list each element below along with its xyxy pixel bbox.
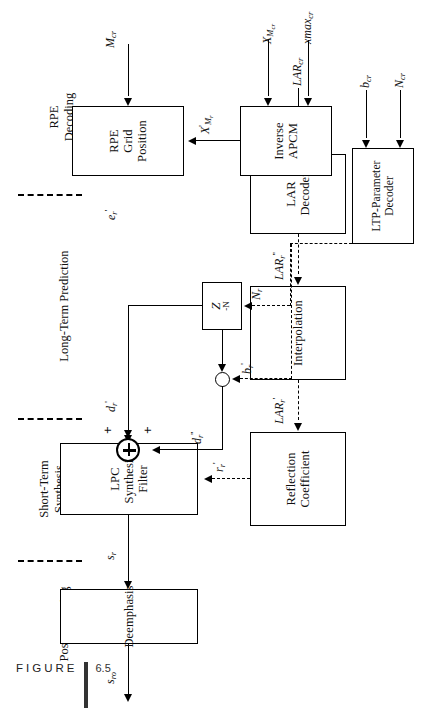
signal-xmax-cr-base: xmax [300,19,314,44]
wire-lar-r1 [298,380,299,420]
signal-lar-r11-sub: r [277,255,287,258]
section-title-rpe-decoding: RPE Decoding [32,62,77,172]
block-label-ltp-l2: Decoder [383,176,396,216]
caption-rule [84,662,88,708]
wire-b-cr [366,90,367,138]
signal-d-r1-sup: ' [103,401,113,403]
signal-label-r-r1: rr' [212,462,227,472]
signal-n-cr-base: N [392,80,406,88]
signal-lar-r11-base: LAR [272,259,286,280]
arrowhead-b-r1 [232,376,240,384]
block-label-rpe-l1: RPE [107,129,121,152]
block-label-deemphasis: Deemphasis [122,585,136,647]
signal-label-x-mcr: XMcr [261,24,277,44]
wire-d-r1-tap-down [128,305,202,306]
figure-page: Postprocessing Short-Term Synthesis Filt… [0,0,426,712]
signal-r-r1-base: r [212,467,226,472]
signal-lar-r1-base: LAR [272,403,286,424]
arrowhead-lar-r1 [294,423,302,431]
signal-d-r1-base: d [104,406,118,412]
separator-shortterm-longterm [18,418,82,420]
signal-b-r1-sup: ' [239,363,249,365]
signal-e-r1-base: e [104,215,118,220]
arrowhead-x-mr1 [188,138,196,146]
block-label-interpolation: Interpolation [291,300,305,366]
signal-label-n-cr: Ncr [393,73,407,88]
wire-n-r [252,305,290,306]
arrowhead-b-cr [362,140,370,148]
rotated-figure-container: Postprocessing Short-Term Synthesis Filt… [0,0,426,712]
block-label-rpe-l3: Position [135,120,149,162]
signal-x-mcr-sub: M [265,30,275,37]
signal-label-d-r11: dr'' [190,432,205,444]
adder-plus-b: + [140,426,155,434]
signal-x-mcr-sub2: cr [269,24,277,30]
signal-m-cr-base: M [103,38,117,48]
block-label-reflection-l2: Coefficient [298,450,312,507]
signal-e-r1-sub: r [109,211,119,214]
wire-d-r11-vert [160,449,223,450]
signal-d-r1-sub: r [109,403,119,406]
block-ltp-parameter-decoder-main[interactable]: LTP-Parameter Decoder [352,148,414,244]
section-label-short-term-l1: Short-Term [37,460,51,517]
signal-x-mcr-base: X [260,37,274,44]
arrowhead-x-mcr [264,98,272,106]
signal-d-r11-sub: r [195,435,205,438]
signal-m-cr-sub: cr [108,31,118,38]
block-diagram-canvas: Postprocessing Short-Term Synthesis Filt… [0,0,426,712]
signal-lar-cr-base: LAR [290,65,304,86]
arrowhead-n-cr [396,140,404,148]
signal-n-cr-sub: cr [397,73,407,80]
signal-x-mr1-sub: M [203,118,213,125]
wire-x-mcr [268,40,269,96]
arrowhead-n-r [244,303,252,311]
signal-label-lar-r1: LARr' [272,398,287,424]
wire-ltp-bus-vert [290,243,352,244]
signal-label-d-r1: dr' [104,401,119,412]
signal-x-mr1-sup: ' [197,125,207,127]
signal-r-r1-sup: ' [211,462,221,464]
wire-d-r11-horizontal [222,386,223,450]
caption-number: 6.5 [95,662,110,674]
wire-z-to-mult [222,329,223,364]
arrowhead-lar-r11 [294,277,302,285]
signal-b-cr-sub: cr [363,75,373,82]
arrowhead-d-r11 [152,447,160,455]
signal-label-x-mr1: X'Mr [198,115,215,134]
signal-label-xmax-cr: xmaxcr [301,12,315,44]
wire-b-r1-horizontal [291,244,292,379]
block-deemphasis[interactable]: Deemphasis [60,589,198,644]
block-label-lpc-l1: LPC [108,467,122,490]
wire-s-ro [128,644,129,694]
block-interpolation[interactable]: Interpolation [250,286,346,380]
signal-lar-r1-sup: ' [271,398,281,400]
adder-node [116,438,140,462]
wire-x-mr1 [196,140,240,141]
signal-d-r11-sup: '' [189,432,199,435]
block-label-lar-decoder-l1: LAR [284,181,298,206]
wire-e-r1-main [128,357,129,429]
block-inverse-apcm[interactable]: Inverse APCM [240,106,332,176]
wire-m-cr [128,44,129,96]
block-label-inverse-l2: APCM [286,123,300,159]
signal-x-mr1-base: X [198,127,212,134]
block-label-inverse-l1: Inverse [272,122,286,160]
signal-lar-r1-sub: r [277,399,287,402]
signal-b-r1-base: b [240,368,254,374]
adder-cross-v [123,449,136,451]
block-delay-z[interactable]: Z-N [202,282,242,330]
signal-xmax-cr-sub: cr [305,12,315,19]
wire-s-r [128,515,129,581]
signal-s-r-sub: r [108,552,118,555]
arrowhead-m-cr [124,98,132,106]
signal-label-m-cr: Mcr [104,31,118,48]
block-rpe-grid-position[interactable]: RPE Grid Position [72,106,184,176]
signal-x-mr1-sub2: r [207,115,215,118]
block-reflection-coefficient[interactable]: Reflection Coefficient [250,432,346,526]
wire-r-r1 [212,478,250,479]
block-label-rpe-l2: Grid [121,129,135,152]
signal-label-b-r1: br' [240,363,255,374]
signal-label-lar-r11: LARr'' [272,252,287,280]
block-label-delay-z: Z-N [209,301,235,311]
signal-lar-r11-sup: '' [271,252,281,255]
